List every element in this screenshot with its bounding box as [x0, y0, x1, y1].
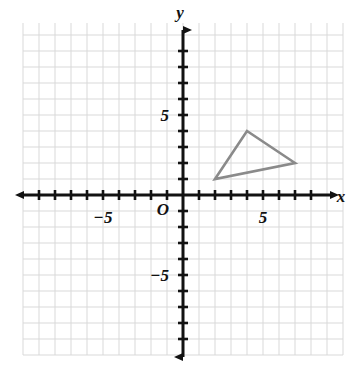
- y-axis-label: y: [174, 3, 184, 22]
- origin-label: O: [157, 200, 169, 219]
- x-axis-label: x: [336, 187, 346, 206]
- coordinate-plane-svg: −555−5 O x y: [0, 0, 363, 373]
- x-tick-label: −5: [94, 208, 113, 227]
- coordinate-plane-figure: −555−5 O x y: [0, 0, 363, 373]
- x-tick-label: 5: [259, 208, 268, 227]
- y-tick-label: −5: [150, 266, 169, 285]
- y-tick-label: 5: [161, 106, 170, 125]
